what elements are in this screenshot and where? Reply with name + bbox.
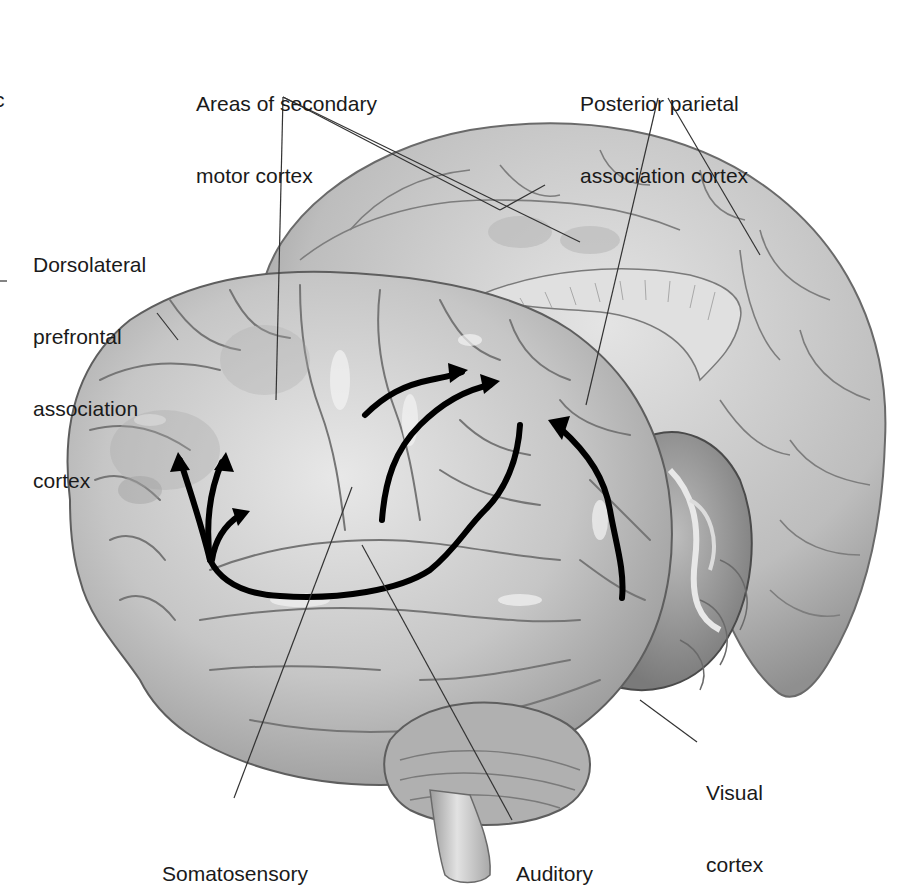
label-line: association [33, 397, 146, 421]
label-line: Auditory [516, 862, 593, 886]
label-line: cortex [706, 853, 763, 877]
partial-glyph-text: c [0, 88, 17, 112]
label-somatosensory-cortex: Somatosensory cortex [162, 814, 308, 892]
label-line: Areas of secondary [196, 92, 377, 116]
label-dorsolateral-prefrontal-cortex: Dorsolateral prefrontal association cort… [33, 205, 146, 541]
brain-diagram: Areas of secondary motor cortex Posterio… [0, 0, 911, 892]
label-line: association cortex [580, 164, 748, 188]
label-line: Visual [706, 781, 763, 805]
lateral-hemisphere [68, 272, 672, 785]
label-secondary-motor-cortex: Areas of secondary motor cortex [196, 44, 377, 236]
label-line: Dorsolateral [33, 253, 146, 277]
label-line: motor cortex [196, 164, 377, 188]
label-line: Posterior parietal [580, 92, 748, 116]
label-line: cortex [33, 469, 146, 493]
label-auditory-cortex: Auditory cortex [516, 814, 593, 892]
label-line: prefrontal [33, 325, 146, 349]
partial-glyph: c [0, 40, 17, 160]
label-posterior-parietal-cortex: Posterior parietal association cortex [580, 44, 748, 236]
label-visual-cortex: Visual cortex [706, 733, 763, 892]
label-line: Somatosensory [162, 862, 308, 886]
